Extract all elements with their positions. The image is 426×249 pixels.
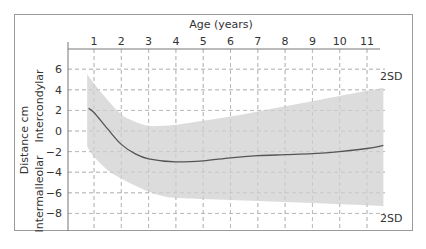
y-tick-labels: 6420−2−4−6−8 <box>46 63 62 220</box>
x-tick-label: 5 <box>200 35 207 48</box>
x-tick-label: 11 <box>360 35 374 48</box>
x-tick-label: 3 <box>145 35 152 48</box>
knee-distance-chart: 1234567891011 6420−2−4−6−8 Age (years) D… <box>0 0 426 249</box>
x-tick-labels: 1234567891011 <box>91 35 375 48</box>
y-tick-label: −2 <box>46 146 62 159</box>
sd-lower-label: 2SD <box>380 212 402 225</box>
x-tick-label: 7 <box>254 35 261 48</box>
y-axis-upper-label: Intercondylar <box>33 69 46 143</box>
sd-upper-label: 2SD <box>380 70 402 83</box>
sd-band <box>87 74 383 206</box>
x-tick-label: 1 <box>91 35 98 48</box>
x-tick-label: 6 <box>227 35 234 48</box>
y-tick-label: −4 <box>46 166 62 179</box>
y-tick-label: −6 <box>46 187 62 200</box>
x-tick-label: 2 <box>118 35 125 48</box>
x-tick-label: 8 <box>282 35 289 48</box>
x-axis-title: Age (years) <box>189 18 253 31</box>
x-tick-label: 9 <box>309 35 316 48</box>
x-tick-label: 10 <box>333 35 347 48</box>
y-tick-label: 2 <box>55 104 62 117</box>
y-axis-title: Distance cm <box>18 106 31 174</box>
y-tick-label: −8 <box>46 207 62 220</box>
y-tick-label: 6 <box>55 63 62 76</box>
y-tick-label: 0 <box>55 125 62 138</box>
x-tick-label: 4 <box>172 35 179 48</box>
y-axis-lower-label: Intermalleolar <box>33 155 46 232</box>
y-tick-label: 4 <box>55 84 62 97</box>
